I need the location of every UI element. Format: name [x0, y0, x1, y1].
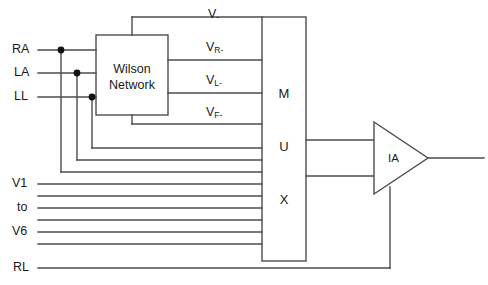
ia-label: IA	[388, 152, 399, 164]
junction-dot-ll	[89, 94, 96, 101]
wilson-network-label-line2: Network	[109, 78, 155, 92]
wilson-network-label-line1: Wilson	[113, 62, 151, 76]
mux-letter-x: X	[262, 192, 306, 207]
mux-letter-m: M	[262, 86, 306, 101]
signal-vl-sign: -	[219, 78, 222, 88]
wilson-network-label: Wilson Network	[96, 62, 168, 93]
signal-label-v-minus: V-	[208, 8, 219, 21]
junction-dot-la	[74, 70, 81, 77]
junction-dot-ra	[58, 47, 65, 54]
ia-triangle	[374, 122, 428, 194]
chest-label-v6: V6	[12, 225, 27, 238]
signal-vf-sign: -	[220, 110, 223, 120]
electrode-label-ra: RA	[12, 43, 29, 56]
electrode-label-la: LA	[14, 66, 29, 79]
signal-label-vr-minus: VR-	[206, 41, 223, 54]
circuit-wiring	[0, 0, 488, 285]
chest-label-to: to	[17, 201, 27, 214]
reference-label-rl: RL	[13, 261, 29, 274]
electrode-label-ll: LL	[14, 90, 28, 103]
chest-label-v1: V1	[12, 177, 27, 190]
signal-vr-sign: -	[220, 45, 223, 55]
mux-letter-u: U	[262, 139, 306, 154]
signal-v-sign: -	[216, 12, 219, 22]
signal-label-vl-minus: VL-	[206, 74, 222, 87]
ecg-frontend-diagram: RA LA LL V1 to V6 RL Wilson Network V- V…	[0, 0, 488, 285]
signal-vf-sub: F	[214, 110, 219, 120]
signal-label-vf-minus: VF-	[206, 106, 222, 119]
